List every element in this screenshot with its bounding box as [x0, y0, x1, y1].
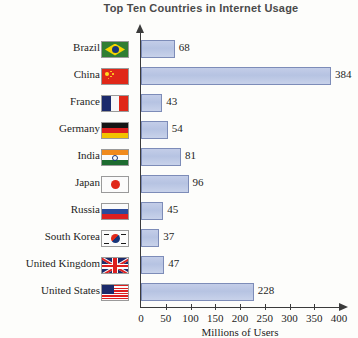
bar-value-label: 43: [166, 95, 177, 107]
bar-value-label: 81: [185, 149, 196, 161]
bar-row: United Kingdom47: [0, 253, 358, 277]
flag-russia-icon: [101, 203, 129, 220]
x-axis-tick: [339, 304, 340, 310]
bar-row: South Korea37: [0, 226, 358, 250]
category-label: South Korea: [0, 230, 100, 242]
bar-value-label: 384: [335, 68, 352, 80]
flag-brazil-icon: [101, 41, 129, 58]
x-axis-tick: [215, 304, 216, 310]
x-axis-tick: [314, 304, 315, 310]
bar: [141, 121, 168, 139]
bar: [141, 175, 189, 193]
y-axis-arrow-icon: [136, 24, 144, 33]
flag-france-icon: [101, 95, 129, 112]
category-label: Japan: [0, 176, 100, 188]
bar-row: France43: [0, 91, 358, 115]
bar-value-label: 228: [258, 284, 275, 296]
bar-row: Japan96: [0, 172, 358, 196]
bar: [141, 283, 254, 301]
category-label: Russia: [0, 203, 100, 215]
bar-row: United States228: [0, 280, 358, 304]
plot-area: Brazil68China384France43Germany54India81…: [0, 20, 358, 338]
bar: [141, 202, 163, 220]
bar: [141, 94, 162, 112]
bar-value-label: 37: [163, 230, 174, 242]
page-title: Top Ten Countries in Internet Usage: [0, 2, 358, 14]
x-axis-tick: [191, 304, 192, 310]
bar-row: China384: [0, 64, 358, 88]
flag-south-korea-icon: [101, 230, 129, 247]
bar-row: Brazil68: [0, 37, 358, 61]
bar-value-label: 54: [172, 122, 183, 134]
bar-value-label: 47: [168, 257, 179, 269]
flag-united-kingdom-icon: [101, 257, 129, 274]
category-label: France: [0, 95, 100, 107]
flag-germany-icon: [101, 122, 129, 139]
bar-value-label: 96: [193, 176, 204, 188]
category-label: Germany: [0, 122, 100, 134]
category-label: Brazil: [0, 41, 100, 53]
flag-india-icon: [101, 149, 129, 166]
x-axis-title: Millions of Users: [140, 326, 340, 338]
category-label: United Kingdom: [0, 257, 100, 269]
x-axis-arrow-icon: [339, 303, 348, 311]
bar: [141, 256, 164, 274]
bar: [141, 67, 331, 85]
x-axis-tick: [240, 304, 241, 310]
category-label: United States: [0, 284, 100, 296]
flag-japan-icon: [101, 176, 129, 193]
chart-page: Top Ten Countries in Internet Usage Braz…: [0, 0, 358, 338]
bar-value-label: 68: [179, 41, 190, 53]
bar-row: India81: [0, 145, 358, 169]
bar: [141, 229, 159, 247]
bar: [141, 40, 175, 58]
flag-china-icon: [101, 68, 129, 85]
x-axis-tick: [265, 304, 266, 310]
bar-row: Germany54: [0, 118, 358, 142]
category-label: China: [0, 68, 100, 80]
bar-value-label: 45: [167, 203, 178, 215]
category-label: India: [0, 149, 100, 161]
bar: [141, 148, 181, 166]
x-axis-tick-label: 400: [324, 312, 354, 324]
x-axis-tick: [290, 304, 291, 310]
flag-united-states-icon: [101, 284, 129, 301]
x-axis-tick: [166, 304, 167, 310]
bar-row: Russia45: [0, 199, 358, 223]
